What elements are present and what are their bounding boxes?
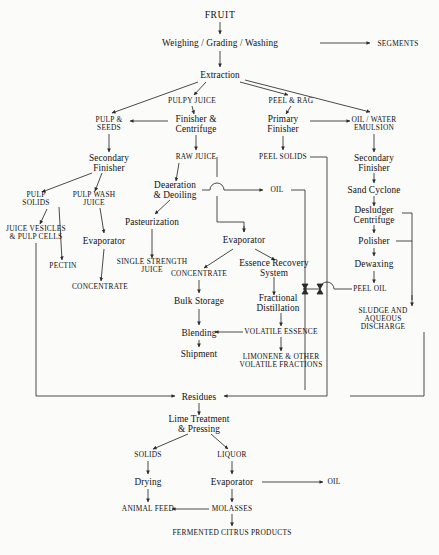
- node-fruit: FRUIT: [205, 10, 236, 20]
- node-pasteurization: Pasteurization: [125, 217, 179, 227]
- node-oil-mid: OIL: [270, 186, 283, 194]
- node-evaporator-left: Evaporator: [83, 236, 125, 246]
- node-finisher-centrifuge: Finisher & Centrifuge: [175, 114, 216, 134]
- edge-pulpsolids-juicevesicles: [40, 209, 47, 224]
- node-weighing-grading-washing: Weighing / Grading / Washing: [162, 38, 278, 48]
- node-pulp-and-seeds: PULP & SEEDS: [96, 116, 123, 132]
- node-fractional-distillation: Fractional Distillation: [256, 293, 299, 313]
- node-solids: SOLIDS: [134, 451, 161, 459]
- node-lime-treatment-pressing: Lime Treatment & Pressing: [168, 414, 229, 434]
- flowchart-canvas: FRUIT Weighing / Grading / Washing SEGME…: [0, 0, 439, 555]
- edge-limetreatment-liquor: [211, 434, 228, 449]
- edge-oil-residues: [291, 190, 305, 370]
- node-evaporator-bottom: Evaporator: [211, 477, 253, 487]
- edge-peelrag-primaryfinisher: [286, 106, 291, 114]
- node-residues: Residues: [182, 392, 216, 402]
- node-limonene-volatile-fractions: LIMONENE & OTHER VOLATILE FRACTIONS: [239, 353, 322, 369]
- node-sludge-aqueous-discharge: SLUDGE AND AQUEOUS DISCHARGE: [355, 307, 411, 331]
- node-liquor: LIQUOR: [217, 451, 246, 459]
- edge-peelsolids-residues-arrow: [224, 391, 327, 396]
- node-juice-vesicles-pulp-cells: JUICE VESICLES & PULP CELLS: [6, 225, 66, 241]
- node-segments: SEGMENTS: [377, 40, 418, 48]
- node-secondary-finisher-right: Secondary Finisher: [354, 153, 394, 173]
- edge-deaeration-pasteurization: [155, 200, 170, 214]
- edge-deaeration-oil: [202, 183, 263, 190]
- node-blending: Blending: [182, 328, 217, 338]
- node-pulp-wash-juice: PULP WASH JUICE: [73, 191, 116, 207]
- node-pulp-solids: PULP SOLIDS: [22, 191, 49, 207]
- node-secondary-finisher-left: Secondary Finisher: [89, 153, 129, 173]
- node-concentrate-mid: CONCENTRATE: [171, 270, 227, 278]
- node-peel-solids: PEEL SOLIDS: [259, 153, 307, 161]
- edge-pulpyjuice-finisher: [192, 106, 194, 114]
- edge-rawjuice-evaporatormid: [217, 157, 244, 232]
- node-molasses: MOLASSES: [212, 505, 253, 513]
- node-concentrate-left: CONCENTRATE: [72, 283, 128, 291]
- node-evaporator-mid: Evaporator: [223, 235, 265, 245]
- node-volatile-essence: VOLATILE ESSENCE: [244, 328, 318, 336]
- node-essence-recovery-system: Essence Recovery System: [239, 258, 309, 278]
- node-deaeration-deoiling: Deaeration & Deoiling: [153, 180, 196, 200]
- node-bulk-storage: Bulk Storage: [174, 296, 224, 306]
- node-animal-feed: ANIMAL FEED: [122, 505, 174, 513]
- node-fermented-citrus-products: FERMENTED CITRUS PRODUCTS: [172, 529, 291, 537]
- edge-evaporatorleft-concentrate: [101, 249, 104, 281]
- node-peel-and-rag: PEEL & RAG: [269, 97, 314, 105]
- node-pulpy-juice: PULPY JUICE: [168, 97, 216, 105]
- edge-limetreatment-solids: [153, 434, 188, 449]
- node-raw-juice: RAW JUICE: [176, 153, 217, 161]
- node-oil-water-emulsion: OIL / WATER EMULSION: [351, 116, 396, 132]
- node-desludger-centrifuge: Desludger Centrifuge: [354, 205, 395, 225]
- edge-evaporatormid-concentrate: [204, 249, 233, 268]
- edge-peeloil-essence: [303, 282, 352, 289]
- edge-secondaryfinisher-pulpwash: [95, 173, 102, 191]
- edge-extraction-pulpyjuice: [194, 82, 206, 95]
- edge-extraction-peelrag: [240, 82, 288, 95]
- node-peel-oil: PEEL OIL: [353, 285, 387, 293]
- node-polisher: Polisher: [358, 236, 389, 246]
- edge-sludge-residues: [350, 332, 424, 396]
- node-extraction: Extraction: [200, 70, 240, 80]
- edge-rawjuice-deaeration: [176, 163, 179, 181]
- node-oil-bottom: OIL: [327, 478, 340, 486]
- node-drying: Drying: [135, 477, 162, 487]
- node-primary-finisher: Primary Finisher: [267, 114, 298, 134]
- edge-desludger-sludge: [402, 213, 412, 300]
- node-sand-cyclone: Sand Cyclone: [347, 185, 400, 195]
- node-shipment: Shipment: [181, 349, 217, 359]
- node-dewaxing: Dewaxing: [354, 259, 393, 269]
- edge-pulpwash-evaporator: [100, 208, 104, 233]
- node-pectin: PECTIN: [49, 262, 76, 270]
